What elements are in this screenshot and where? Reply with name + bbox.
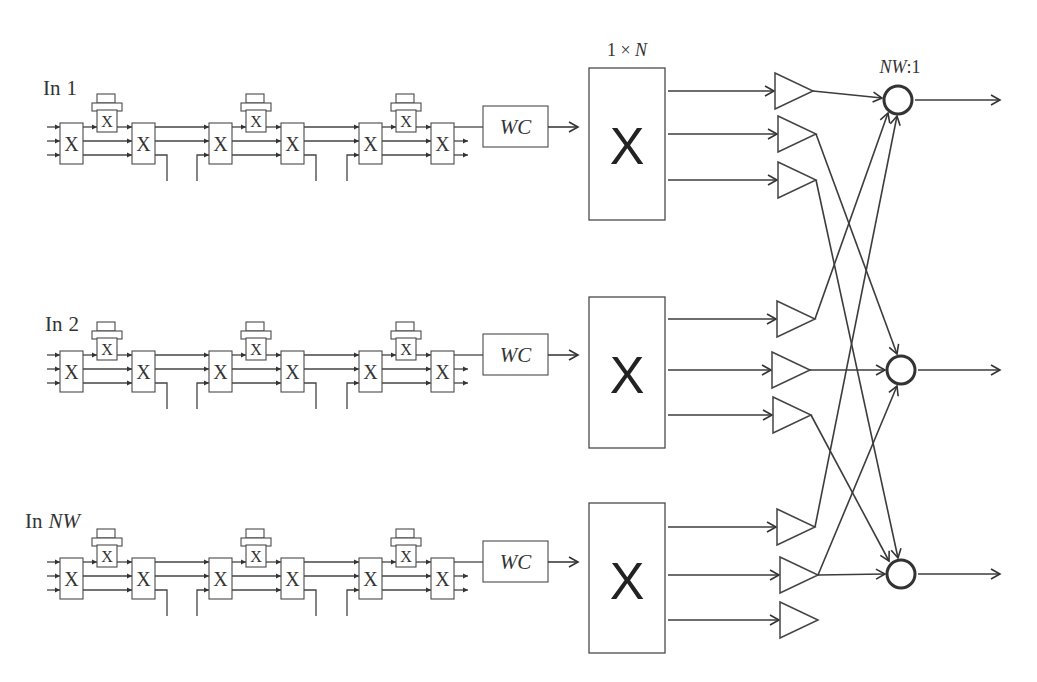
space-switch-symbol: X	[610, 346, 645, 404]
filter-symbol: X	[400, 113, 412, 130]
space-switch-symbol: X	[610, 117, 645, 175]
switch-symbol: X	[64, 133, 79, 155]
switch-symbol: X	[136, 568, 151, 590]
amplifier-2-3	[773, 397, 811, 433]
combiner-ratio-label: NW:1	[878, 57, 920, 77]
switch-symbol: X	[435, 568, 450, 590]
switch-symbol: X	[64, 361, 79, 383]
input-chains: XXXXXXXXXWCXXXXXXXXXWCXXXXXXXXXWC	[47, 94, 578, 616]
combiner-2	[887, 356, 915, 384]
amp-to-combiner-link	[813, 91, 882, 98]
add-drop-stage-1: XXX	[60, 94, 209, 181]
filter-symbol: X	[250, 548, 262, 565]
amplifier-3-1	[777, 509, 815, 545]
amplifier-1-2	[778, 116, 816, 152]
amplifier-1-1	[775, 73, 813, 109]
switch-symbol: X	[363, 361, 378, 383]
filter-top	[246, 94, 264, 103]
input-label-index: 2	[69, 312, 80, 336]
labels: In1In2InNW1 × NNW:1	[25, 40, 921, 533]
filter-top	[246, 322, 264, 331]
switch-symbol: X	[213, 568, 228, 590]
input-label: InNW	[25, 509, 83, 533]
filter-top	[97, 94, 115, 103]
filter-symbol: X	[101, 548, 113, 565]
filter-symbol: X	[101, 341, 113, 358]
add-port	[347, 590, 359, 616]
amplifier-3-3	[780, 602, 818, 638]
add-port	[347, 383, 359, 409]
add-drop-stage-2: XXX	[209, 322, 359, 409]
converter-label: WC	[500, 115, 532, 139]
add-drop-stage-3: XXX	[359, 529, 483, 599]
drop-port	[155, 383, 167, 409]
input-label-index: NW	[48, 509, 83, 533]
input-chain-2: XXXXXXXXXWC	[47, 322, 578, 409]
add-drop-stage-3: XXX	[359, 94, 483, 164]
switch-symbol: X	[435, 133, 450, 155]
switch-symbol: X	[285, 361, 300, 383]
input-label-index: 1	[67, 76, 78, 100]
amp-to-combiner-link	[818, 386, 897, 575]
input-label: In1	[43, 76, 77, 100]
switch-symbol: X	[213, 361, 228, 383]
switch-symbol: X	[363, 568, 378, 590]
switch-symbol: X	[363, 133, 378, 155]
add-port	[197, 590, 209, 616]
input-chain-1: XXXXXXXXXWC	[47, 94, 578, 181]
amplifier-1-3	[778, 162, 816, 198]
filter-top	[396, 94, 414, 103]
input-chain-3: XXXXXXXXXWC	[47, 529, 578, 616]
filter-symbol: X	[250, 341, 262, 358]
input-label-prefix: In	[43, 76, 61, 100]
add-port	[197, 155, 209, 181]
filter-symbol: X	[400, 341, 412, 358]
filter-top	[97, 322, 115, 331]
converter-label: WC	[500, 343, 532, 367]
amplifier-2-1	[777, 301, 815, 337]
drop-port	[155, 155, 167, 181]
input-label-prefix: In	[45, 312, 63, 336]
combiner-ratio-suffix: :1	[906, 57, 920, 77]
input-label-prefix: In	[25, 509, 43, 533]
converter-label: WC	[500, 550, 532, 574]
wavelength-switch-diagram: XXXXXXXXXWCXXXXXXXXXWCXXXXXXXXXWC XXX In…	[0, 0, 1037, 682]
add-drop-stage-2: XXX	[209, 529, 359, 616]
drop-port	[304, 590, 316, 616]
amp-to-combiner-link	[818, 574, 885, 575]
filter-top	[396, 529, 414, 538]
amplifier-3-2	[780, 557, 818, 593]
add-drop-stage-3: XXX	[359, 322, 483, 392]
filter-symbol: X	[400, 548, 412, 565]
add-drop-stage-2: XXX	[209, 94, 359, 181]
space-switch-symbol: X	[610, 552, 645, 610]
add-drop-stage-1: XXX	[60, 529, 209, 616]
combiner-ratio-variable: NW	[878, 57, 908, 77]
combiner-1	[884, 86, 912, 114]
filter-top	[246, 529, 264, 538]
switch-symbol: X	[136, 361, 151, 383]
switch-symbol: X	[213, 133, 228, 155]
switch-symbol: X	[285, 568, 300, 590]
filter-top	[97, 529, 115, 538]
drop-port	[304, 155, 316, 181]
input-label: In2	[45, 312, 79, 336]
splitter-size-label: 1 × N	[607, 40, 648, 60]
drop-port	[304, 383, 316, 409]
filter-symbol: X	[250, 113, 262, 130]
add-port	[197, 383, 209, 409]
space-switches: XXX	[589, 68, 818, 653]
switch-symbol: X	[435, 361, 450, 383]
combiner-links	[810, 86, 1000, 588]
splitter-size-variable: N	[634, 40, 648, 60]
switch-symbol: X	[136, 133, 151, 155]
drop-port	[155, 590, 167, 616]
add-drop-stage-1: XXX	[60, 322, 209, 409]
filter-top	[396, 322, 414, 331]
add-port	[347, 155, 359, 181]
filter-symbol: X	[101, 113, 113, 130]
combiner-3	[887, 560, 915, 588]
switch-symbol: X	[285, 133, 300, 155]
amplifier-2-2	[772, 352, 810, 388]
switch-symbol: X	[64, 568, 79, 590]
